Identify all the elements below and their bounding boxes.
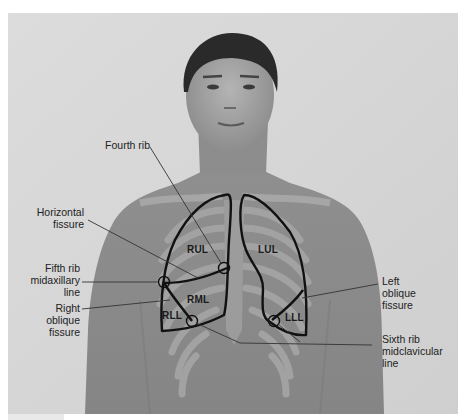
lobe-rml: RML (187, 294, 209, 305)
label-line: midaxillary (10, 274, 80, 286)
caption-placeholder (8, 414, 64, 420)
lobe-lul: LUL (258, 244, 278, 255)
label-sixth-rib-midclavicular: Sixth rib midclavicular line (382, 333, 462, 369)
label-fourth-rib: Fourth rib (80, 139, 150, 151)
label-line: fissure (18, 218, 84, 230)
label-line: Fifth rib (10, 262, 80, 274)
label-line: Sixth rib (382, 333, 462, 345)
label-line: oblique (382, 287, 452, 299)
label-line: line (10, 286, 80, 298)
label-line: Horizontal (18, 206, 84, 218)
label-line: oblique (10, 314, 80, 326)
label-line: midclavicular (382, 345, 462, 357)
label-line: Fourth rib (80, 139, 150, 151)
label-horizontal-fissure: Horizontal fissure (18, 206, 84, 230)
label-left-oblique-fissure: Left oblique fissure (382, 275, 452, 311)
lobe-rul: RUL (187, 244, 208, 255)
label-line: Left (382, 275, 452, 287)
label-right-oblique-fissure: Right oblique fissure (10, 302, 80, 338)
label-line: fissure (10, 326, 80, 338)
lobe-lll: LLL (285, 312, 304, 323)
label-line: fissure (382, 299, 452, 311)
label-line: line (382, 357, 462, 369)
label-line: Right (10, 302, 80, 314)
label-fifth-rib-midaxillary: Fifth rib midaxillary line (10, 262, 80, 298)
lobe-rll: RLL (162, 310, 182, 321)
chest-lung-lobe-diagram: Fourth rib Horizontal fissure Fifth rib … (0, 0, 464, 420)
